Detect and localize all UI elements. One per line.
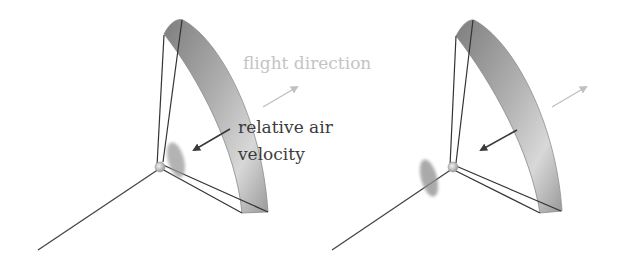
tether-left — [38, 169, 159, 250]
dish-right — [456, 20, 562, 213]
flight-direction-label: flight direction — [243, 55, 371, 72]
flight-arrow-right — [552, 87, 586, 107]
rotor-left — [164, 141, 189, 180]
air-arrow-right — [481, 130, 517, 150]
flight-arrow-left — [263, 87, 297, 107]
relative-air-label-line2: velocity — [238, 146, 305, 163]
relative-air-label-line1: relative air — [238, 119, 333, 136]
hub-left — [155, 162, 165, 172]
hub-right — [448, 162, 458, 172]
